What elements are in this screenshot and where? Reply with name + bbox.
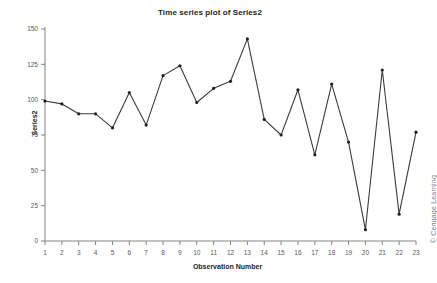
x-tick-label: 21 [379,249,387,256]
data-point [94,112,97,115]
y-tick-label: 25 [31,202,39,209]
x-tick-label: 20 [362,249,370,256]
data-point [398,213,401,216]
x-axis-label: Observation Number [45,263,410,270]
x-tick-label: 13 [244,249,252,256]
x-tick-label: 7 [144,249,148,256]
x-tick-label: 4 [94,249,98,256]
x-axis-ticks: 1234567891011121314151617181920212223 [43,241,420,256]
data-point [43,99,46,102]
copyright-credit: © Cengage Learning [430,175,437,243]
x-tick-label: 14 [261,249,269,256]
data-point [111,126,114,129]
data-point [347,140,350,143]
y-tick-label: 100 [27,96,38,103]
x-tick-label: 5 [111,249,115,256]
x-tick-label: 15 [277,249,285,256]
y-tick-label: 125 [27,61,38,68]
data-point [296,88,299,91]
data-point [60,102,63,105]
data-point [145,124,148,127]
y-axis-ticks: 0255075100125150 [27,25,45,244]
data-point [381,68,384,71]
data-point [195,101,198,104]
data-point [313,153,316,156]
y-tick-label: 0 [34,237,38,244]
data-point [161,74,164,77]
series-markers [43,37,417,231]
x-tick-label: 23 [412,249,420,256]
series-line [45,39,416,230]
x-tick-label: 9 [178,249,182,256]
y-tick-label: 50 [31,167,39,174]
x-tick-label: 18 [328,249,336,256]
y-tick-label: 150 [27,25,38,32]
x-tick-label: 22 [396,249,404,256]
data-point [263,118,266,121]
data-point [330,83,333,86]
x-tick-label: 16 [294,249,302,256]
x-tick-label: 10 [193,249,201,256]
data-point [229,80,232,83]
y-tick-label: 75 [31,131,39,138]
x-tick-label: 2 [60,249,64,256]
data-point [246,37,249,40]
x-tick-label: 6 [128,249,132,256]
data-point [178,64,181,67]
x-tick-label: 12 [227,249,235,256]
data-point [77,112,80,115]
x-tick-label: 1 [43,249,47,256]
x-tick-label: 8 [161,249,165,256]
data-point [128,91,131,94]
data-point [364,228,367,231]
x-tick-label: 11 [210,249,217,256]
x-tick-label: 17 [311,249,319,256]
data-point [279,133,282,136]
data-point [212,87,215,90]
x-tick-label: 3 [77,249,81,256]
x-tick-label: 19 [345,249,353,256]
data-point [414,131,417,134]
